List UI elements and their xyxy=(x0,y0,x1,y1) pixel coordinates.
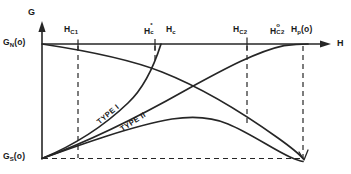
curve-type2-rising xyxy=(42,44,308,159)
x-axis-label: H xyxy=(337,39,344,48)
x-axis xyxy=(42,41,331,48)
hc-subscript: c xyxy=(172,29,175,35)
y-axis-label: G xyxy=(28,8,35,17)
hc2o-stack: oC2 xyxy=(276,25,281,34)
hcstar-superscript: * xyxy=(150,22,153,28)
figure-root: G H GN(o) GS(o) HC1 H*c Hc HC2 HoC2 Hp(o… xyxy=(0,0,351,174)
hcstar-subscript: c xyxy=(150,29,154,35)
gn-tail: (o) xyxy=(14,37,25,47)
gs-tail: (o) xyxy=(14,151,25,161)
field-label-hc: Hc xyxy=(166,25,176,34)
y-axis xyxy=(38,21,45,158)
hc2o-superscript: o xyxy=(276,22,280,28)
curve-type1-descending xyxy=(42,44,303,159)
gn-subscript: N xyxy=(10,42,14,48)
y-tick-label-gs: GS(o) xyxy=(3,152,25,161)
hpo-tail: (o) xyxy=(301,24,312,34)
hc1-subscript: C1 xyxy=(70,29,78,35)
curve-type1-rising xyxy=(42,44,161,159)
y-tick-label-gn: GN(o) xyxy=(3,38,26,47)
hpo-subscript: p xyxy=(297,29,301,35)
hcstar-stack: *c xyxy=(150,25,155,34)
gn-base: G xyxy=(3,37,10,47)
gs-base: G xyxy=(3,151,10,161)
field-label-hc1: HC1 xyxy=(64,25,78,34)
hc2o-subscript: C2 xyxy=(276,29,284,35)
hc2-subscript: C2 xyxy=(239,29,247,35)
field-label-hc2o: HoC2 xyxy=(270,25,281,36)
field-label-hpo: Hp(o) xyxy=(291,25,312,34)
field-label-hcstar: H*c xyxy=(144,25,155,36)
field-label-hc2: HC2 xyxy=(233,25,247,34)
gs-subscript: S xyxy=(10,156,14,162)
